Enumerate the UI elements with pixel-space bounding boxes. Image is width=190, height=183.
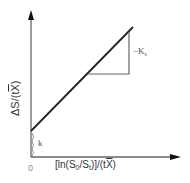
y-axis-arrow-icon <box>28 10 34 20</box>
intercept-brace <box>32 133 34 156</box>
x-axis-arrow-icon <box>170 154 181 160</box>
diagram-canvas <box>0 0 190 183</box>
regression-line <box>31 27 133 131</box>
origin-label: 0 <box>28 164 33 173</box>
slope-label: −Ks <box>133 47 147 57</box>
intercept-label: k <box>38 139 43 148</box>
y-axis-label: ΔS/(tX) <box>10 81 21 116</box>
x-axis-label: [ln(S0/St)]/(tX) <box>55 160 116 171</box>
